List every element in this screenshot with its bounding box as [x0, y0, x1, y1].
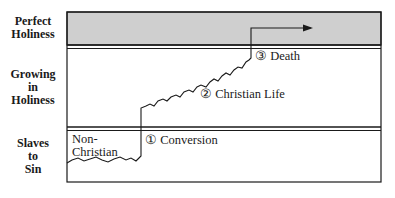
annotation-conversion: ① Conversion [145, 134, 218, 147]
label-line: Holiness [0, 28, 66, 41]
label-line: Sin [0, 163, 66, 176]
label-growing-in-holiness: Growing in Holiness [0, 68, 66, 107]
label-line: Holiness [0, 94, 66, 107]
annotation-christian-life: ② Christian Life [200, 88, 285, 101]
label-slaves-to-sin: Slaves to Sin [0, 137, 66, 176]
annotation-non-christian: Non- Christian [72, 133, 118, 159]
annotation-line: Christian [72, 146, 118, 159]
annotation-death: ③ Death [255, 50, 300, 63]
label-perfect-holiness: Perfect Holiness [0, 15, 66, 41]
perfect-holiness-band [67, 12, 381, 45]
